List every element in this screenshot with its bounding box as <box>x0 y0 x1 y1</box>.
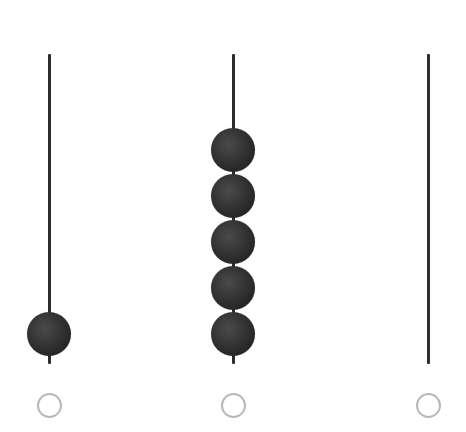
abacus-bead <box>27 312 71 356</box>
abacus-bead <box>211 220 255 264</box>
rod-tens-circle <box>221 393 246 418</box>
abacus-bead <box>211 128 255 172</box>
abacus-bead <box>211 174 255 218</box>
abacus-bead <box>211 312 255 356</box>
rod-hundreds-circle <box>37 393 62 418</box>
rod-ones-circle <box>416 393 441 418</box>
abacus-bead <box>211 266 255 310</box>
abacus-rod-ones <box>427 54 430 364</box>
